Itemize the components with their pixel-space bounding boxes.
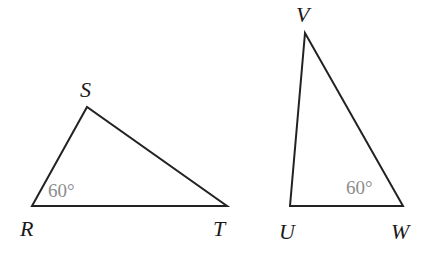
vertex-label-s: S <box>80 77 91 102</box>
vertex-label-w: W <box>391 219 411 244</box>
triangles-figure: S R T 60° V U W 60° <box>0 0 430 254</box>
angle-label-r: 60° <box>48 180 75 201</box>
vertex-label-t: T <box>213 216 227 241</box>
vertex-label-u: U <box>279 219 297 244</box>
vertex-label-v: V <box>296 2 312 27</box>
diagram-canvas: S R T 60° V U W 60° <box>0 0 430 254</box>
vertex-label-r: R <box>19 216 34 241</box>
angle-label-w: 60° <box>346 177 373 198</box>
